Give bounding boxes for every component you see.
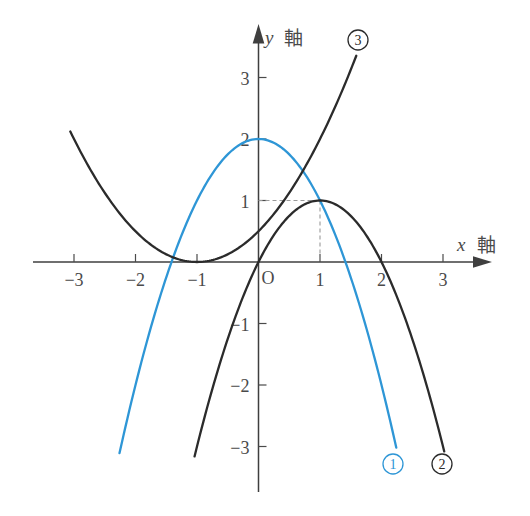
x-tick-label: 3: [439, 270, 448, 290]
function-plot: −3−2−1123321−1−2−3 123 x 軸 y 軸 O: [0, 0, 530, 516]
curve-2: [195, 201, 445, 457]
guide-lines-layer: [259, 201, 321, 263]
curves-layer: [70, 56, 444, 457]
y-tick-label: −3: [230, 438, 249, 458]
x-tick-label: −3: [64, 270, 83, 290]
x-tick-label: −1: [187, 270, 206, 290]
curve-badge-digit-2: 2: [439, 457, 446, 472]
x-axis-title-word: 軸: [477, 235, 496, 256]
x-tick-label: 2: [377, 270, 386, 290]
y-axis-arrow-icon: [253, 24, 265, 44]
y-axis-title-word: 軸: [284, 28, 303, 49]
x-tick-label: 1: [316, 270, 325, 290]
x-axis-title-variable: x: [456, 234, 466, 255]
x-tick-label: −2: [126, 270, 145, 290]
x-axis-arrow-icon: [473, 256, 492, 268]
curve-3: [70, 56, 356, 262]
tick-labels-layer: −3−2−1123321−1−2−3: [64, 69, 447, 458]
curve-badges-layer: 123: [348, 30, 452, 474]
y-tick-label: 1: [241, 192, 250, 212]
figure-container: −3−2−1123321−1−2−3 123 x 軸 y 軸 O: [0, 0, 530, 516]
y-axis-title-variable: y: [263, 27, 274, 48]
origin-label: O: [262, 268, 275, 288]
y-tick-label: −2: [230, 376, 249, 396]
axes-layer: [33, 24, 492, 492]
y-tick-label: 3: [241, 69, 250, 89]
curve-badge-digit-3: 3: [355, 33, 362, 48]
curve-badge-digit-1: 1: [390, 457, 397, 472]
